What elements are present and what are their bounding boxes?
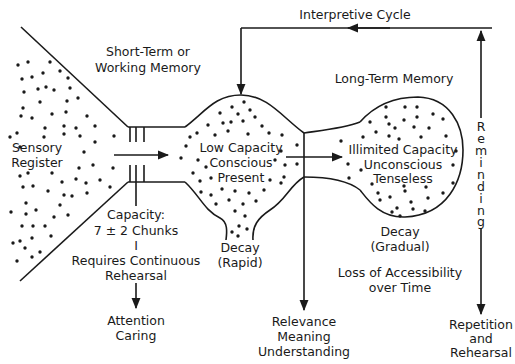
decay-gradual-label: Decay	[380, 224, 420, 239]
sensory-register-label: Register	[11, 155, 63, 170]
capacity-label: I	[134, 238, 138, 253]
decay-rapid-label: Decay	[220, 240, 260, 255]
long-term-title: Long-Term Memory	[335, 71, 454, 86]
repetition-label: Repetition	[449, 317, 513, 332]
svg-text:g: g	[477, 214, 485, 229]
loss-of-accessibility-label: Loss of Accessibility	[338, 265, 463, 280]
reminding-label: R e m i n d i n g	[475, 119, 487, 229]
stm-properties: Conscious	[209, 155, 272, 170]
short-term-title: Working Memory	[95, 60, 201, 75]
ltm-properties: Unconscious	[364, 157, 442, 172]
stm-gate	[114, 127, 185, 206]
capacity-label: 7 ± 2 Chunks	[94, 223, 179, 238]
relevance-label: Understanding	[258, 344, 350, 359]
stm-properties: Present	[218, 170, 265, 185]
capacity-label: Capacity:	[107, 207, 165, 222]
decay-rapid-label: (Rapid)	[217, 255, 262, 270]
decay-gradual-label: (Gradual)	[370, 239, 429, 254]
interpretive-cycle-label: Interpretive Cycle	[299, 7, 411, 22]
memory-model-diagram: Interpretive Cycle Short-Term or Working…	[0, 0, 515, 364]
repetition-label: and	[469, 331, 493, 346]
stm-properties: Low Capacity	[199, 140, 283, 155]
relevance-label: Relevance	[272, 314, 337, 329]
repetition-label: Rehearsal	[450, 345, 512, 360]
attention-label: Caring	[116, 328, 157, 343]
ltm-properties: Tenseless	[372, 171, 433, 186]
attention-label: Attention	[107, 313, 165, 328]
short-term-title: Short-Term or	[106, 44, 191, 59]
capacity-label: Requires Continuous	[72, 253, 201, 268]
loss-of-accessibility-label: over Time	[369, 280, 432, 295]
ltm-properties: Illimited Capacity	[349, 142, 458, 157]
sensory-register-label: Sensory	[12, 140, 63, 155]
relevance-label: Meaning	[277, 329, 330, 344]
capacity-label: Rehearsal	[105, 268, 167, 283]
